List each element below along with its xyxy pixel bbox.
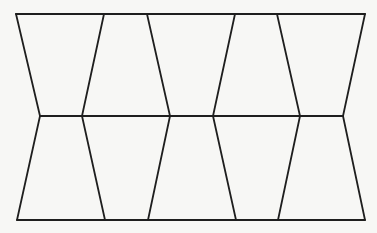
top-slant-edge-5: [343, 14, 365, 116]
horizontal-edges: [16, 14, 365, 220]
trapezoid-tessellation-diagram: [0, 0, 377, 233]
top-row-trapezoids: [16, 14, 365, 116]
top-slant-edge-3: [213, 14, 235, 116]
bottom-row-trapezoids: [17, 116, 365, 220]
top-slant-edge-1: [82, 14, 104, 116]
bottom-slant-edge-4: [278, 116, 300, 220]
bottom-slant-edge-1: [82, 116, 105, 220]
bottom-slant-edge-2: [148, 116, 170, 220]
bottom-slant-edge-0: [17, 116, 40, 220]
bottom-slant-edge-5: [343, 116, 365, 220]
top-slant-edge-2: [147, 14, 170, 116]
bottom-slant-edge-3: [213, 116, 236, 220]
top-slant-edge-0: [16, 14, 40, 116]
top-slant-edge-4: [277, 14, 300, 116]
